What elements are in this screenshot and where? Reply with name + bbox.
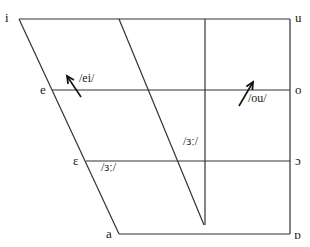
chart-lines (19, 19, 290, 234)
vowel-label-i: i (5, 11, 9, 24)
vowel-label-a: a (106, 227, 112, 240)
annotation-er-mid: /ɜː/ (183, 135, 198, 147)
annotation-ou: /ou/ (248, 92, 267, 104)
vowel-chart (0, 0, 310, 247)
vowel-label-epsilon: ε (73, 154, 78, 167)
vowel-label-script-a: ɒ (294, 228, 301, 241)
diphthong-arrows (67, 76, 253, 106)
annotation-ei: /ei/ (79, 72, 94, 84)
vowel-label-u: u (295, 11, 302, 24)
annotation-er-low: /ɜː/ (101, 161, 116, 173)
front-edge (19, 19, 119, 234)
vowel-label-e: e (40, 83, 46, 96)
central-diagonal (119, 19, 204, 225)
vowel-label-open-o: ɔ (295, 154, 301, 167)
vowel-label-o: o (295, 83, 302, 96)
